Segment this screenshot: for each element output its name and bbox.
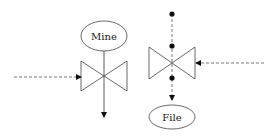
lower-dot: [169, 75, 174, 80]
file-node: File: [149, 105, 195, 129]
diagram-canvas: Mine File: [0, 0, 278, 136]
mine-label: Mine: [91, 31, 117, 42]
upper-dot: [169, 43, 174, 48]
mine-node: Mine: [81, 21, 127, 51]
top-dot: [169, 11, 174, 16]
file-label: File: [162, 112, 181, 123]
